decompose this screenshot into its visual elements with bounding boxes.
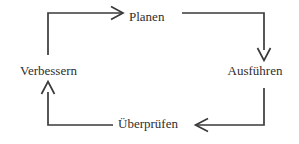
node-label-ueberpruefen: Überprüfen [98,117,198,131]
node-label-ausfuehren: Ausführen [205,64,299,78]
cycle-diagram: Planen Ausführen Überprüfen Verbessern [0,0,299,144]
node-label-planen: Planen [0,10,299,24]
arrow-ausfuehren-to-ueberpruefen [196,88,265,132]
node-label-verbessern: Verbessern [0,64,97,78]
